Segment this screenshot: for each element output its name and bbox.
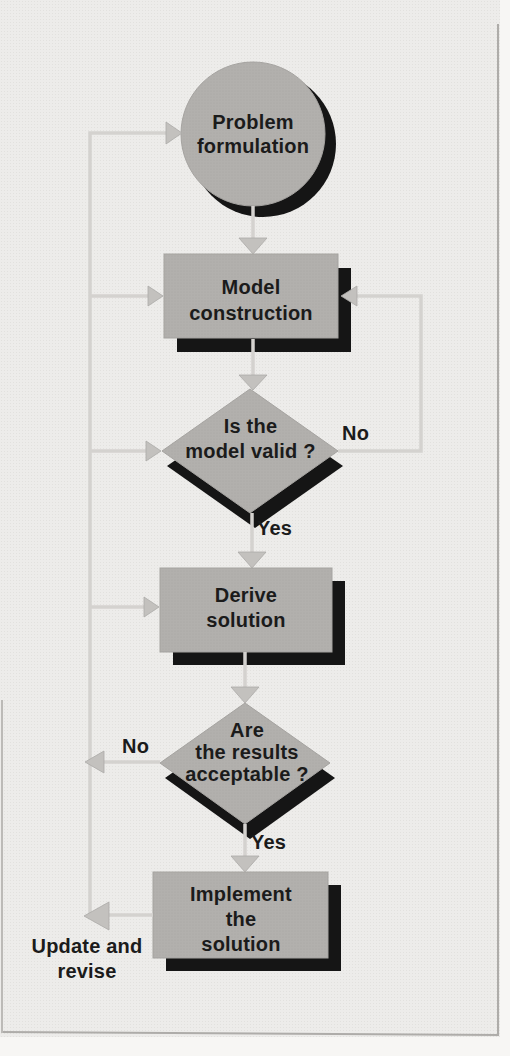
arrowhead-into-implement-top bbox=[231, 856, 259, 872]
arrowhead-acceptable-no bbox=[85, 751, 104, 773]
arrowhead-into-valid-top bbox=[239, 375, 267, 390]
page-margin-right bbox=[500, 0, 510, 1056]
valid-no-label: No bbox=[342, 423, 382, 443]
acceptable-no-label: No bbox=[122, 736, 162, 756]
arrowhead-into-model-top bbox=[239, 238, 267, 254]
valid-node-label: Is the model valid ? bbox=[168, 414, 333, 464]
acceptable-yes-label: Yes bbox=[251, 832, 297, 852]
arrowhead-into-derive-left bbox=[144, 597, 159, 617]
problem-node-label: Problem formulation bbox=[173, 110, 333, 158]
figure-border-right bbox=[497, 24, 499, 1036]
arrowhead-implement-feedback bbox=[84, 902, 109, 930]
derive-node-label: Derive solution bbox=[161, 583, 331, 633]
arrowhead-into-derive-top bbox=[238, 552, 266, 568]
figure-border-left bbox=[1, 700, 3, 1033]
arrowhead-into-acceptable-top bbox=[231, 687, 259, 703]
flowchart-figure: Problem formulation Model construction I… bbox=[0, 0, 510, 1056]
feedback-trunk-line bbox=[90, 133, 168, 916]
model-node-label: Model construction bbox=[166, 274, 336, 326]
arrowhead-into-valid-left bbox=[146, 441, 161, 461]
implement-node-label: Implement the solution bbox=[155, 882, 327, 957]
arrowhead-into-model-left bbox=[148, 286, 163, 306]
update-revise-label: Update and revise bbox=[26, 934, 148, 984]
acceptable-node-label: Are the results acceptable ? bbox=[163, 719, 331, 785]
valid-yes-label: Yes bbox=[257, 518, 303, 538]
page-margin-bottom bbox=[0, 1037, 510, 1056]
